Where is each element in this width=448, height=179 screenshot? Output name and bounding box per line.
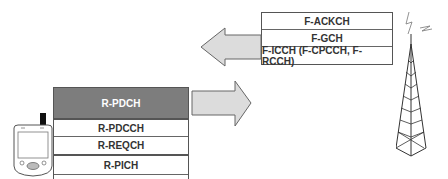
cell-tower-icon (396, 10, 448, 170)
channel-label: F-GCH (311, 33, 343, 44)
reverse-channel-r-pich: R-PICH (54, 156, 188, 175)
reverse-channel-r-pdcch: R-PDCCH (54, 120, 188, 137)
pda-handset-icon (10, 112, 54, 178)
forward-channel-stack: F-ACKCH F-GCH F-ICCH (F-CPCCH, F-RCCH) (261, 12, 393, 65)
channel-label: F-ACKCH (304, 16, 350, 27)
channel-label: R-PDCCH (98, 123, 144, 134)
channel-label: R-REQCH (98, 140, 145, 151)
channel-label: R-PDCH (102, 98, 141, 109)
forward-channel-f-icch: F-ICCH (F-CPCCH, F-RCCH) (262, 47, 392, 64)
channel-label: R-PICH (104, 160, 138, 171)
forward-link-arrow-icon (200, 27, 262, 67)
reverse-channel-stack: R-PDCH R-PDCCH R-REQCH R-PICH (53, 87, 189, 179)
reverse-link-arrow-icon (191, 80, 253, 130)
channel-label: F-ICCH (F-CPCCH, F-RCCH) (262, 45, 392, 67)
reverse-channel-r-pdch: R-PDCH (54, 88, 188, 120)
forward-channel-f-ackch: F-ACKCH (262, 13, 392, 30)
reverse-channel-r-reqch: R-REQCH (54, 137, 188, 156)
